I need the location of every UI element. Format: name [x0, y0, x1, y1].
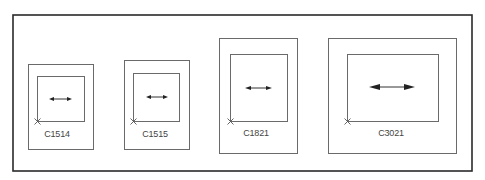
double-arrow-icon: [245, 86, 272, 90]
panel-label: C1515: [142, 129, 168, 139]
panel-c1514: C1514: [29, 65, 94, 150]
double-arrow-icon: [49, 97, 72, 101]
panel-c1515: C1515: [125, 61, 190, 150]
panel-c1821: C1821: [220, 39, 298, 154]
window-type-diagram: C1514 C1515 C1821: [0, 0, 485, 180]
double-arrow-icon: [146, 95, 168, 99]
window-opening: [348, 55, 439, 122]
panel-label: C1821: [243, 128, 269, 138]
panel-c3021: C3021: [329, 39, 457, 154]
panel-label: C1514: [44, 129, 70, 139]
panel-label: C3021: [378, 128, 404, 138]
double-arrow-icon: [369, 84, 415, 90]
